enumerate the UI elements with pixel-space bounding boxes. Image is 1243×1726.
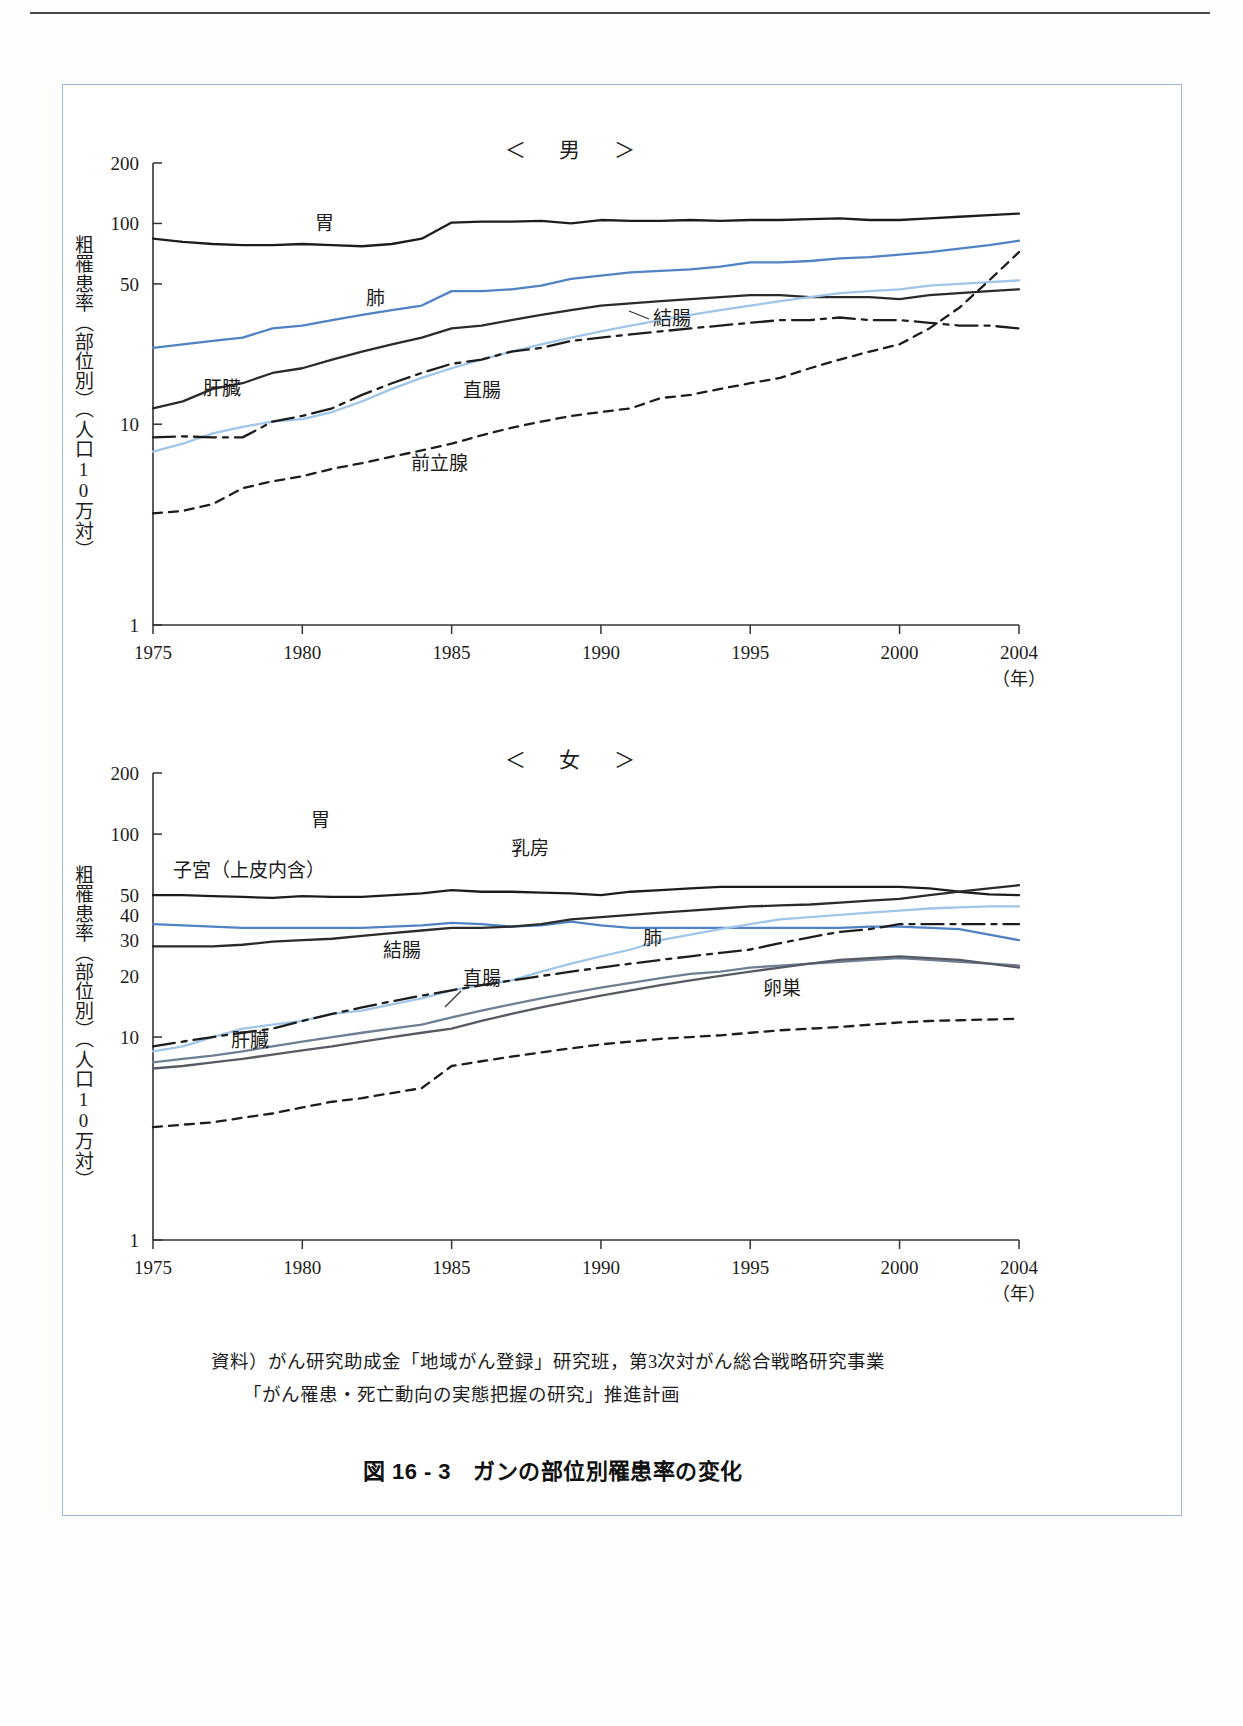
series-label-ovary: 卵巣 (763, 978, 801, 999)
y-tick-label: 10 (120, 1027, 139, 1048)
document-page: ＜ 男 ＞ 粗罹患率（部位別）（人口10万対） 1105010020019751… (0, 0, 1243, 1726)
series-label-lung: 肺 (366, 288, 385, 309)
series-label-rectum: 直腸 (463, 968, 501, 989)
series-line-直腸 (153, 958, 1019, 1062)
y-tick-label: 10 (120, 414, 139, 435)
figure-caption: 図 16 - 3 ガンの部位別罹患率の変化 (363, 1453, 743, 1485)
x-tick-label: 1980 (283, 642, 321, 663)
y-tick-label: 50 (120, 885, 139, 906)
y-tick-label: 40 (120, 905, 139, 926)
y-tick-label: 30 (120, 930, 139, 951)
x-tick-label: 2004 (1000, 1257, 1039, 1278)
x-axis-unit-label: （年） (992, 1284, 1046, 1304)
series-label-uterus: 子宮（上皮内含） (173, 860, 325, 881)
series-label-colon: 結腸 (383, 940, 421, 961)
chart-male-title: ＜ 男 ＞ (443, 133, 703, 163)
x-tick-label: 2000 (881, 1257, 919, 1278)
chart-male-ylabel: 粗罹患率（部位別）（人口10万対） (73, 235, 93, 595)
source-line-1: 資料）がん研究助成金「地域がん登録」研究班，第3次対がん総合戦略研究事業 (211, 1348, 885, 1378)
series-line-肝臓 (153, 289, 1019, 408)
chart-female-ylabel: 粗罹患率（部位別）（人口10万対） (73, 865, 93, 1225)
source-line-2: 「がん罹患・死亡動向の実態把握の研究」推進計画 (243, 1381, 680, 1411)
x-tick-label: 1985 (433, 642, 471, 663)
y-tick-label: 200 (111, 153, 140, 174)
series-label-stomach: 胃 (315, 213, 334, 234)
x-tick-label: 1990 (582, 1257, 620, 1278)
y-tick-label: 100 (111, 213, 140, 234)
series-label-rectum: 直腸 (463, 380, 501, 401)
x-tick-label: 2000 (881, 642, 919, 663)
series-line-前立腺 (153, 252, 1019, 513)
series-line-肺 (153, 924, 1019, 1046)
series-label-leader (629, 311, 649, 319)
series-label-leader (445, 991, 461, 1007)
series-line-肺 (153, 241, 1019, 348)
series-label-liver: 肝臓 (203, 378, 241, 399)
chart-male-plot: 110501002001975198019851990199520002004（… (63, 85, 1181, 705)
series-line-胃 (153, 214, 1019, 247)
chart-female-title: ＜ 女 ＞ (443, 743, 703, 773)
x-tick-label: 1980 (283, 1257, 321, 1278)
x-tick-label: 1995 (731, 642, 769, 663)
y-tick-label: 1 (130, 1230, 140, 1251)
x-tick-label: 2004 (1000, 642, 1039, 663)
series-label-prostate: 前立腺 (411, 453, 468, 474)
series-label-breast: 乳房 (511, 838, 549, 859)
series-line-卵巣 (153, 1019, 1019, 1127)
y-tick-label: 100 (111, 824, 140, 845)
x-tick-label: 1990 (582, 642, 620, 663)
series-line-結腸 (153, 280, 1019, 451)
series-line-子宮（上皮内含） (153, 922, 1019, 940)
series-line-胃 (153, 887, 1019, 898)
y-tick-label: 200 (111, 763, 140, 784)
y-tick-label: 20 (120, 966, 139, 987)
y-tick-label: 50 (120, 274, 139, 295)
x-tick-label: 1975 (134, 1257, 172, 1278)
series-label-liver: 肝臓 (231, 1030, 269, 1051)
y-tick-label: 1 (130, 615, 140, 636)
series-label-stomach: 胃 (311, 810, 330, 831)
x-tick-label: 1985 (433, 1257, 471, 1278)
chart-male: ＜ 男 ＞ 粗罹患率（部位別）（人口10万対） 1105010020019751… (63, 85, 1181, 705)
chart-female: ＜ 女 ＞ 粗罹患率（部位別）（人口10万対） 1102030405010020… (63, 695, 1181, 1335)
figure-frame: ＜ 男 ＞ 粗罹患率（部位別）（人口10万対） 1105010020019751… (62, 84, 1182, 1516)
x-axis-unit-label: （年） (992, 669, 1046, 689)
chart-female-plot: 1102030405010020019751980198519901995200… (63, 695, 1181, 1335)
series-line-肝臓 (153, 956, 1019, 1068)
series-label-colon: 結腸 (653, 308, 691, 329)
series-label-lung: 肺 (643, 928, 662, 949)
x-tick-label: 1995 (731, 1257, 769, 1278)
x-tick-label: 1975 (134, 642, 172, 663)
page-top-rule (30, 12, 1210, 14)
